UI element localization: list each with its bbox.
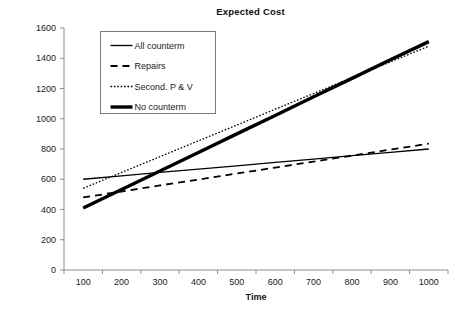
- data-series-line: [83, 144, 429, 198]
- legend-label-2: Repairs: [135, 61, 167, 71]
- legend-label-1: All counterm: [135, 41, 185, 51]
- y-axis-tick-label: 1600: [36, 23, 56, 33]
- legend-label-4: No counterm: [135, 102, 187, 112]
- y-axis-labels: 02004006008001000120014001600: [36, 23, 56, 275]
- x-axis-tick-label: 200: [114, 277, 129, 287]
- y-axis-tick-label: 1200: [36, 84, 56, 94]
- legend-label-3: Second. P & V: [135, 82, 193, 92]
- y-axis-tick-label: 600: [41, 174, 56, 184]
- chart-container: Expected Cost 02004006008001000120014001…: [0, 0, 461, 322]
- x-axis-tick-label: 300: [152, 277, 167, 287]
- y-axis-tick-group: [60, 28, 64, 270]
- data-series-line: [83, 149, 429, 179]
- y-axis-tick-label: 400: [41, 205, 56, 215]
- x-axis-tick-label: 600: [268, 277, 283, 287]
- x-axis-tick-label: 1000: [419, 277, 439, 287]
- y-axis-tick-label: 1400: [36, 53, 56, 63]
- x-axis-labels: 1002003004005006007008009001000: [76, 277, 439, 287]
- chart-plot-area: 02004006008001000120014001600 1002003004…: [0, 0, 461, 322]
- x-axis-tick-label: 800: [344, 277, 359, 287]
- x-axis-tick-label: 400: [191, 277, 206, 287]
- y-axis-tick-label: 200: [41, 235, 56, 245]
- x-axis-tick-label: 700: [306, 277, 321, 287]
- x-axis-tick-label: 100: [76, 277, 91, 287]
- y-axis-tick-label: 1000: [36, 114, 56, 124]
- x-axis-tick-label: 900: [383, 277, 398, 287]
- y-axis-tick-label: 800: [41, 144, 56, 154]
- x-axis-tick-group: [64, 270, 448, 274]
- y-axis-tick-label: 0: [51, 265, 56, 275]
- x-axis-tick-label: 500: [229, 277, 244, 287]
- x-axis-title: Time: [246, 292, 267, 302]
